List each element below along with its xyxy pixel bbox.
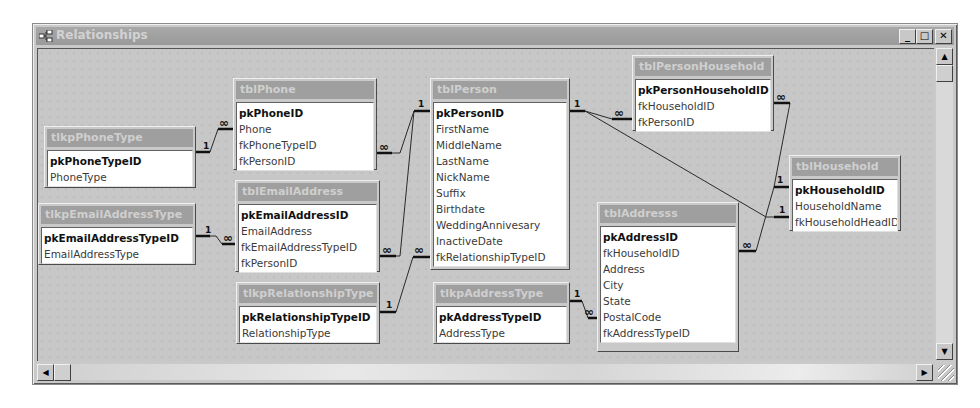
table-title[interactable]: tlkpPhoneType: [47, 129, 193, 147]
cardinality-many: ∞: [584, 305, 594, 319]
table-title[interactable]: tlkpAddressType: [436, 285, 567, 303]
field[interactable]: EmailAddress: [241, 223, 376, 239]
field-primary-key[interactable]: pkEmailAddressID: [241, 207, 376, 223]
vertical-scrollbar[interactable]: ▲ ▼: [936, 48, 953, 360]
field[interactable]: EmailAddressType: [44, 246, 192, 262]
field[interactable]: Suffix: [436, 185, 566, 201]
cardinality-many: ∞: [776, 90, 786, 104]
cardinality-one: 1: [386, 300, 392, 310]
field-primary-key[interactable]: pkAddressTypeID: [439, 309, 566, 325]
field[interactable]: Address: [603, 261, 735, 277]
cardinality-one: 1: [574, 289, 580, 299]
field[interactable]: fkPersonID: [241, 255, 376, 271]
field[interactable]: PostalCode: [603, 309, 735, 325]
cardinality-many: ∞: [219, 116, 229, 130]
field-list: pkAddressID fkHouseholdID Address City S…: [600, 226, 736, 343]
field-list: pkEmailAddressID EmailAddress fkEmailAdd…: [238, 204, 377, 273]
field[interactable]: fkHouseholdID: [638, 98, 770, 114]
field-list: pkRelationshipTypeID RelationshipType: [239, 306, 377, 343]
table-tblPerson[interactable]: tblPerson pkPersonID FirstName MiddleNam…: [430, 78, 570, 270]
cardinality-one: 1: [777, 175, 783, 185]
table-tlkpAddressType[interactable]: tlkpAddressType pkAddressTypeID AddressT…: [433, 282, 570, 344]
field[interactable]: HouseholdName: [795, 198, 897, 214]
field[interactable]: PhoneType: [50, 169, 192, 185]
field-primary-key[interactable]: pkRelationshipTypeID: [242, 309, 376, 325]
field-list: pkPhoneID Phone fkPhoneTypeID fkPersonID: [236, 102, 374, 171]
cardinality-one: 1: [779, 205, 785, 215]
close-button[interactable]: ✕: [935, 29, 952, 44]
table-title[interactable]: tblHousehold: [792, 158, 898, 176]
table-title[interactable]: tblPerson: [433, 81, 567, 99]
cardinality-many: ∞: [742, 238, 752, 252]
field-primary-key[interactable]: pkPersonID: [436, 105, 566, 121]
field[interactable]: FirstName: [436, 121, 566, 137]
table-tblPhone[interactable]: tblPhone pkPhoneID Phone fkPhoneTypeID f…: [233, 78, 377, 170]
scroll-left-button[interactable]: ◀: [37, 364, 54, 381]
horizontal-scroll-thumb[interactable]: [54, 364, 71, 381]
field[interactable]: Phone: [239, 121, 373, 137]
cardinality-many: ∞: [379, 140, 389, 154]
cardinality-many: ∞: [414, 243, 424, 257]
scroll-up-button[interactable]: ▲: [936, 48, 953, 65]
field[interactable]: LastName: [436, 153, 566, 169]
relationships-icon: [39, 30, 53, 42]
field[interactable]: Birthdate: [436, 201, 566, 217]
field-list: pkPhoneTypeID PhoneType: [47, 150, 193, 187]
table-title[interactable]: tlkpRelationshipType: [239, 285, 377, 303]
table-title[interactable]: tlkpEmailAddressType: [41, 206, 193, 224]
cardinality-one: 1: [574, 99, 580, 109]
cardinality-one: 1: [418, 99, 424, 109]
field-primary-key[interactable]: pkAddressID: [603, 229, 735, 245]
field-list: pkHouseholdID HouseholdName fkHouseholdH…: [792, 179, 898, 232]
field[interactable]: fkPhoneTypeID: [239, 137, 373, 153]
field[interactable]: fkHouseholdHeadID: [795, 214, 897, 230]
field-primary-key[interactable]: pkEmailAddressTypeID: [44, 230, 192, 246]
resize-grip-icon[interactable]: [938, 365, 954, 381]
table-tlkpRelationshipType[interactable]: tlkpRelationshipType pkRelationshipTypeI…: [236, 282, 380, 344]
window-title: Relationships: [56, 28, 148, 42]
table-tblPersonHousehold[interactable]: tblPersonHousehold pkPersonHouseholdID f…: [632, 55, 774, 131]
field-list: pkAddressTypeID AddressType: [436, 306, 567, 343]
field[interactable]: fkAddressTypeID: [603, 325, 735, 341]
field[interactable]: fkEmailAddressTypeID: [241, 239, 376, 255]
field[interactable]: fkHouseholdID: [603, 245, 735, 261]
field[interactable]: WeddingAnnivesary: [436, 217, 566, 233]
field[interactable]: State: [603, 293, 735, 309]
field-primary-key[interactable]: pkPersonHouseholdID: [638, 82, 770, 98]
field-list: pkPersonID FirstName MiddleName LastName…: [433, 102, 567, 267]
table-tlkpPhoneType[interactable]: tlkpPhoneType pkPhoneTypeID PhoneType: [44, 126, 196, 188]
field[interactable]: MiddleName: [436, 137, 566, 153]
field[interactable]: NickName: [436, 169, 566, 185]
field-primary-key[interactable]: pkHouseholdID: [795, 182, 897, 198]
cardinality-one: 1: [203, 141, 209, 151]
table-tblAddresss[interactable]: tblAddresss pkAddressID fkHouseholdID Ad…: [597, 202, 739, 352]
cardinality-many: ∞: [382, 243, 392, 257]
field-primary-key[interactable]: pkPhoneID: [239, 105, 373, 121]
field[interactable]: RelationshipType: [242, 325, 376, 341]
table-title[interactable]: tblAddresss: [600, 205, 736, 223]
field[interactable]: fkRelationshipTypeID: [436, 249, 566, 265]
horizontal-scrollbar[interactable]: ◀ ▶: [37, 364, 933, 380]
title-bar[interactable]: Relationships _ □ ✕: [36, 27, 954, 45]
cardinality-many: ∞: [223, 231, 233, 245]
field[interactable]: AddressType: [439, 325, 566, 341]
table-tblEmailAddress[interactable]: tblEmailAddress pkEmailAddressID EmailAd…: [235, 180, 380, 272]
field-list: pkPersonHouseholdID fkHouseholdID fkPers…: [635, 79, 771, 132]
scroll-down-button[interactable]: ▼: [936, 343, 953, 360]
table-tblHousehold[interactable]: tblHousehold pkHouseholdID HouseholdName…: [789, 155, 901, 231]
field[interactable]: InactiveDate: [436, 233, 566, 249]
field[interactable]: City: [603, 277, 735, 293]
maximize-button[interactable]: □: [916, 29, 933, 44]
cardinality-one: 1: [205, 225, 211, 235]
field-primary-key[interactable]: pkPhoneTypeID: [50, 153, 192, 169]
vertical-scroll-thumb[interactable]: [936, 65, 953, 82]
table-title[interactable]: tblPhone: [236, 81, 374, 99]
table-tlkpEmailAddressType[interactable]: tlkpEmailAddressType pkEmailAddressTypeI…: [38, 203, 196, 265]
table-title[interactable]: tblPersonHousehold: [635, 58, 771, 76]
scroll-right-button[interactable]: ▶: [916, 364, 933, 381]
field[interactable]: fkPersonID: [638, 114, 770, 130]
minimize-button[interactable]: _: [899, 29, 916, 44]
table-title[interactable]: tblEmailAddress: [238, 183, 377, 201]
field[interactable]: fkPersonID: [239, 153, 373, 169]
field-list: pkEmailAddressTypeID EmailAddressType: [41, 227, 193, 264]
